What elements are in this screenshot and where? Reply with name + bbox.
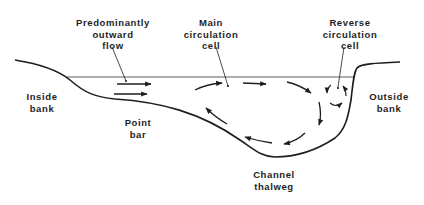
label-channel-thalweg: Channel thalweg <box>244 169 304 192</box>
label-line: cell <box>171 40 251 52</box>
leader-lines <box>112 47 344 87</box>
reverse-circulation-cell-arrows <box>327 85 346 106</box>
label-inside-bank: Inside bank <box>20 91 64 114</box>
label-line: Predominantly <box>58 17 168 29</box>
label-reverse-circulation-cell: Reverse circulation cell <box>310 17 390 52</box>
leader-dot <box>125 80 127 82</box>
label-line: outward <box>58 29 168 41</box>
label-line: Inside <box>20 91 64 103</box>
label-line: bar <box>118 129 158 141</box>
outward-flow-arrows <box>114 84 151 94</box>
leader-dot <box>227 85 229 87</box>
label-line: thalweg <box>244 181 304 193</box>
label-line: flow <box>58 40 168 52</box>
channel-bed-profile <box>15 60 400 157</box>
label-line: circulation <box>171 29 251 41</box>
main-circulation-cell-arrows <box>195 82 321 144</box>
label-line: cell <box>310 40 390 52</box>
label-line: Point <box>118 117 158 129</box>
label-main-circulation-cell: Main circulation cell <box>171 17 251 52</box>
label-point-bar: Point bar <box>118 117 158 140</box>
label-outward-flow: Predominantly outward flow <box>58 17 168 52</box>
leader-dot <box>337 87 339 89</box>
label-line: Channel <box>244 169 304 181</box>
label-line: bank <box>364 103 414 115</box>
label-line: bank <box>20 103 64 115</box>
label-line: Main <box>171 17 251 29</box>
label-line: Outside <box>364 91 414 103</box>
label-line: circulation <box>310 29 390 41</box>
label-line: Reverse <box>310 17 390 29</box>
label-outside-bank: Outside bank <box>364 91 414 114</box>
